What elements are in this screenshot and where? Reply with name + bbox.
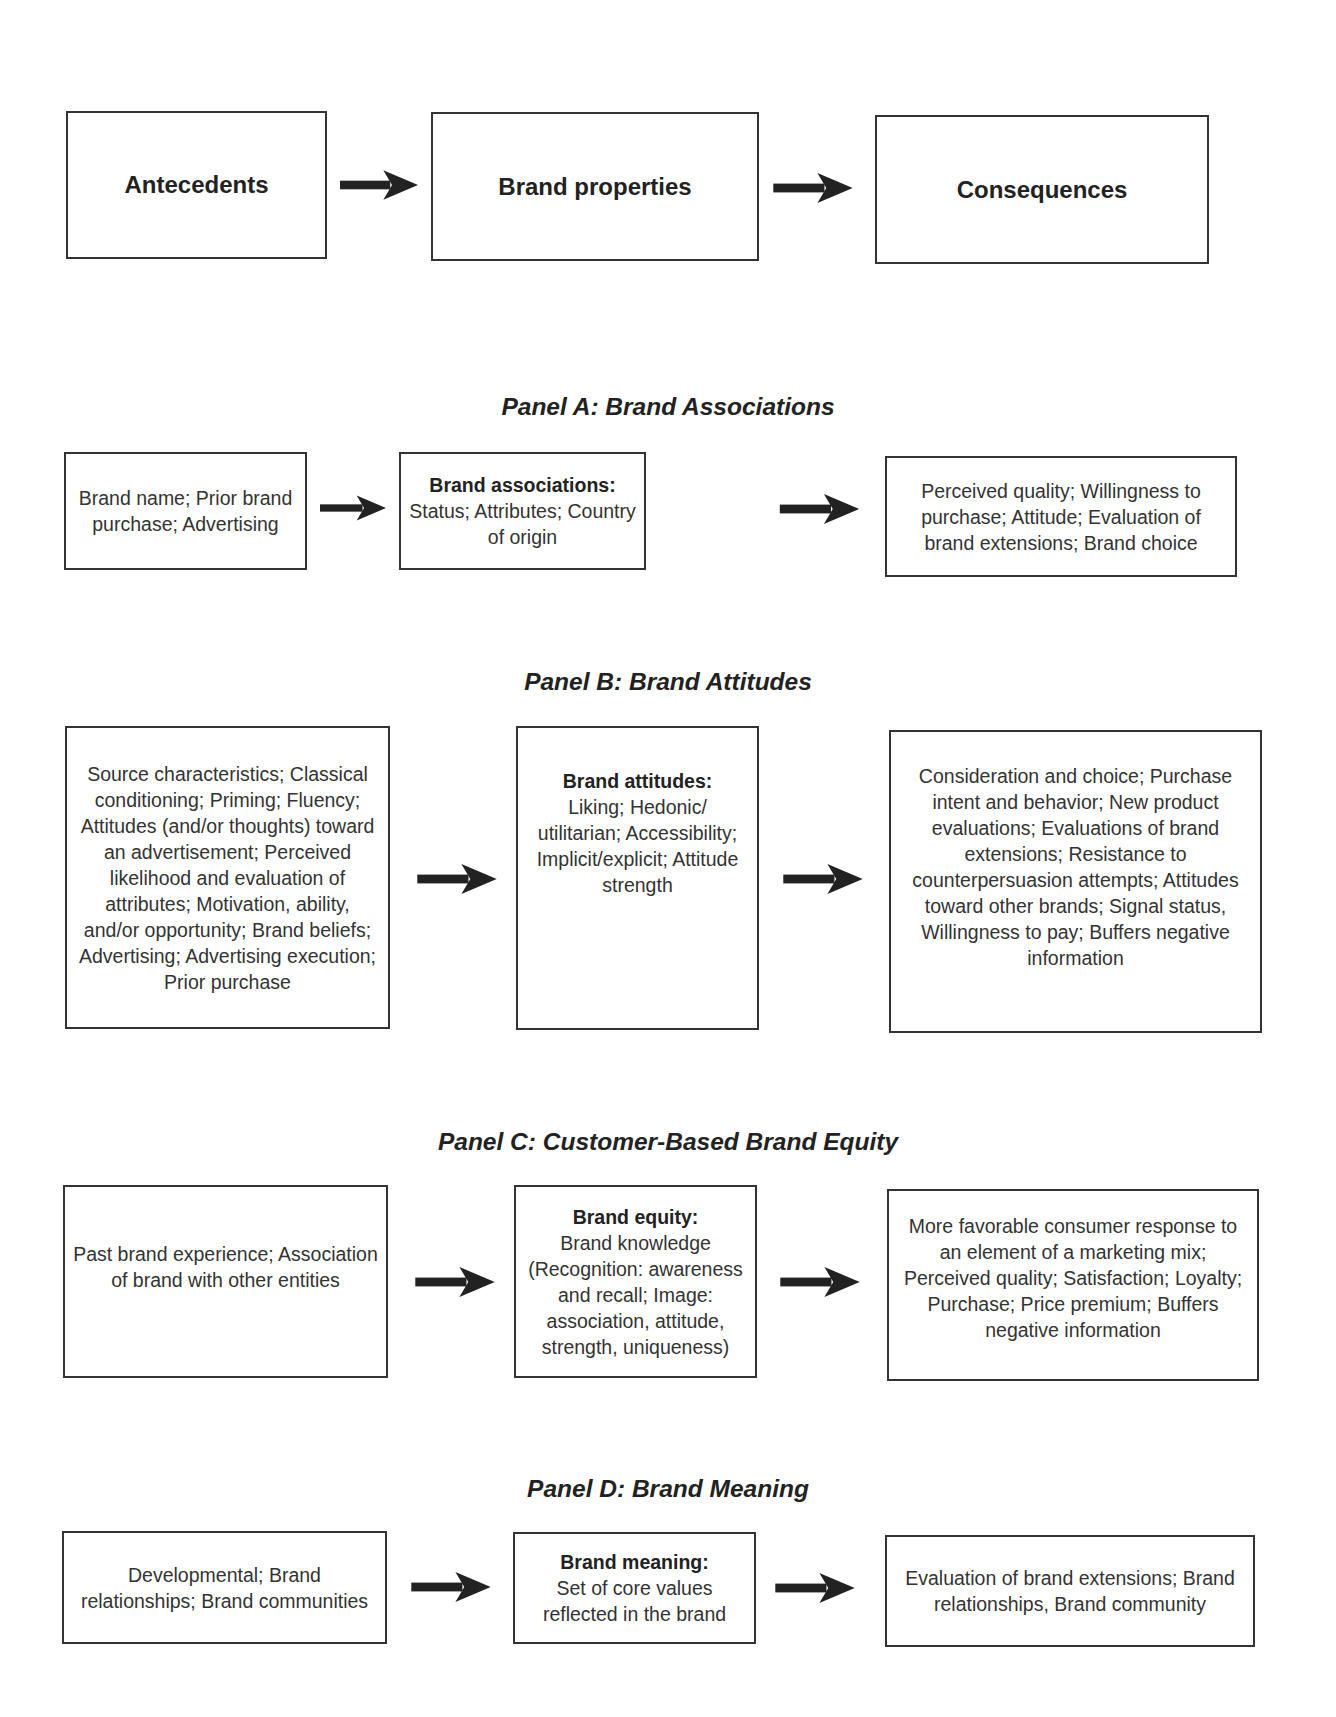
panel-d-antecedents-text: Developmental; Brand relationships; Bran… [64, 1562, 385, 1614]
panel-d-consequences-text: Evaluation of brand extensions; Brand re… [887, 1565, 1253, 1617]
arrow-icon [410, 1267, 500, 1297]
panel-b-antecedents-box: Source characteristics; Classical condit… [65, 726, 390, 1029]
panel-d-property-text: Set of core values reflected in the bran… [543, 1577, 726, 1625]
panel-c-property-text: Brand knowledge (Recognition: awareness … [528, 1232, 743, 1358]
panel-a-property-label: Brand associations: [409, 472, 636, 498]
panel-a-property-text: Status; Attributes; Country of origin [409, 500, 636, 548]
panel-b-property-label: Brand attitudes: [526, 768, 749, 794]
panel-a-consequences-box: Perceived quality; Willingness to purcha… [885, 456, 1237, 577]
panel-b-antecedents-text: Source characteristics; Classical condit… [67, 761, 388, 995]
arrow-icon [320, 493, 386, 523]
panel-a-title: Panel A: Brand Associations [0, 393, 1336, 421]
header-brand-properties-label: Brand properties [490, 173, 699, 201]
panel-b-property-text: Liking; Hedonic/ utilitarian; Accessibil… [537, 796, 739, 896]
panel-b-title: Panel B: Brand Attitudes [0, 668, 1336, 696]
panel-a-property-box: Brand associations: Status; Attributes; … [399, 452, 646, 570]
header-consequences-box: Consequences [875, 115, 1209, 264]
arrow-icon [412, 864, 502, 894]
panel-a-consequences-text: Perceived quality; Willingness to purcha… [887, 478, 1235, 556]
panel-c-consequences-text: More favorable consumer response to an e… [889, 1213, 1257, 1343]
header-brand-properties-box: Brand properties [431, 112, 759, 261]
arrow-icon [340, 170, 418, 200]
panel-d-property-box: Brand meaning: Set of core values reflec… [513, 1532, 756, 1644]
arrow-icon [406, 1572, 496, 1602]
panel-c-consequences-box: More favorable consumer response to an e… [887, 1189, 1259, 1381]
panel-c-antecedents-text: Past brand experience; Association of br… [65, 1241, 386, 1293]
panel-c-property-label: Brand equity: [524, 1204, 747, 1230]
header-antecedents-label: Antecedents [116, 171, 276, 199]
panel-b-consequences-text: Consideration and choice; Purchase inten… [891, 763, 1260, 971]
arrow-icon [770, 1573, 860, 1603]
arrow-icon [775, 1267, 865, 1297]
panel-c-title: Panel C: Customer-Based Brand Equity [0, 1128, 1336, 1156]
panel-b-consequences-box: Consideration and choice; Purchase inten… [889, 730, 1262, 1033]
arrow-icon [778, 864, 868, 894]
panel-c-antecedents-box: Past brand experience; Association of br… [63, 1185, 388, 1378]
panel-d-property-label: Brand meaning: [523, 1549, 746, 1575]
panel-d-antecedents-box: Developmental; Brand relationships; Bran… [62, 1531, 387, 1644]
panel-d-consequences-box: Evaluation of brand extensions; Brand re… [885, 1535, 1255, 1647]
panel-c-property-box: Brand equity: Brand knowledge (Recogniti… [514, 1185, 757, 1378]
panel-d-title: Panel D: Brand Meaning [0, 1475, 1336, 1503]
panel-a-antecedents-box: Brand name; Prior brand purchase; Advert… [64, 452, 307, 570]
panel-a-antecedents-text: Brand name; Prior brand purchase; Advert… [66, 485, 305, 537]
header-consequences-label: Consequences [949, 176, 1136, 204]
panel-b-property-box: Brand attitudes: Liking; Hedonic/ utilit… [516, 726, 759, 1030]
header-antecedents-box: Antecedents [66, 111, 327, 259]
arrow-icon [773, 173, 853, 203]
arrow-icon [778, 494, 861, 524]
